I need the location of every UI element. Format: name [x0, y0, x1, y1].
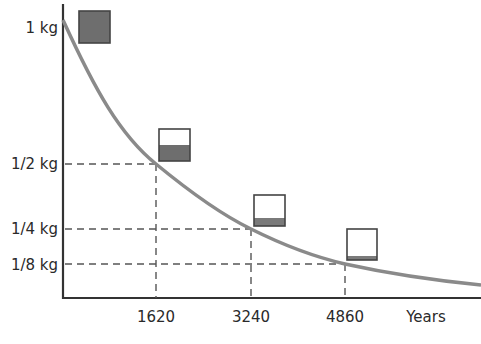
y-label-quarter-kg: 1/4 kg — [11, 220, 58, 238]
guide-lines — [65, 164, 345, 298]
sample-box-half — [159, 129, 190, 161]
x-label-3240: 3240 — [232, 308, 270, 326]
x-axis-title: Years — [405, 308, 446, 326]
x-label-1620: 1620 — [137, 308, 175, 326]
decay-curve — [63, 20, 481, 285]
sample-box-quarter — [254, 195, 285, 226]
x-label-4860: 4860 — [326, 308, 364, 326]
sample-box-eighth — [347, 229, 377, 260]
sample-box-full — [79, 11, 110, 43]
y-label-eighth-kg: 1/8 kg — [11, 256, 58, 274]
y-label-half-kg: 1/2 kg — [11, 155, 58, 173]
y-label-1kg: 1 kg — [25, 19, 58, 37]
half-life-diagram: 1 kg 1/2 kg 1/4 kg 1/8 kg 1620 3240 4860… — [0, 0, 481, 344]
